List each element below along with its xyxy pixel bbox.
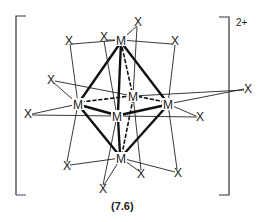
ligand-atom: X (174, 166, 182, 180)
ligand-atom: X (47, 73, 55, 87)
ligand-atom: X (63, 159, 71, 173)
ligand-atom: X (244, 82, 252, 96)
ligand-atom: X (171, 34, 179, 48)
left-bracket (16, 16, 26, 195)
ligand-atom: X (65, 34, 73, 48)
ligand-atom: X (99, 182, 107, 196)
metal-cluster-diagram: M M M M M M X X X X X X X X X X X X 2+ (… (0, 0, 260, 222)
ligand-atom: X (196, 110, 204, 124)
ligand-atom: X (24, 107, 32, 121)
right-bracket (219, 17, 229, 195)
metal-metal-bonds (80, 42, 166, 155)
ligand-atom: X (100, 30, 108, 44)
ligand-atoms: X X X X X X X X X X X X (24, 15, 252, 196)
ligand-atom: X (137, 167, 145, 181)
metal-atom-back: M (128, 90, 138, 104)
ligand-atom: X (134, 15, 142, 29)
metal-atom-right: M (163, 98, 173, 112)
metal-atom-left: M (73, 98, 83, 112)
metal-atom-front: M (112, 110, 122, 124)
charge-label: 2+ (236, 17, 248, 28)
metal-atom-top: M (116, 34, 126, 48)
equation-number: (7.6) (111, 200, 134, 212)
metal-atom-bottom: M (116, 152, 126, 166)
